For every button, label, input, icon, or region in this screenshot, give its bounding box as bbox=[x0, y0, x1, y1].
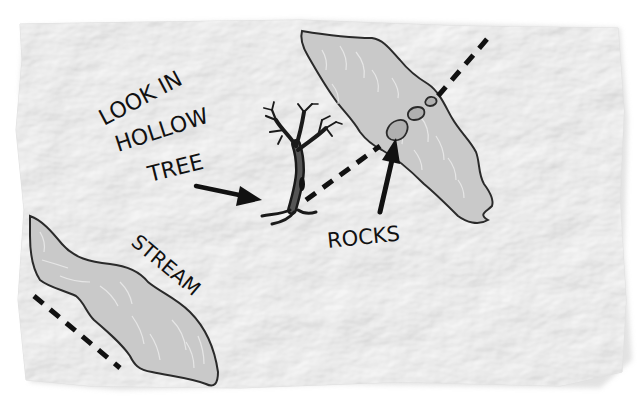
treasure-map: LOOK IN HOLLOW TREE ROCKS STREAM bbox=[0, 0, 644, 408]
rocks-icon bbox=[408, 107, 424, 120]
rocks-icon bbox=[425, 97, 436, 106]
